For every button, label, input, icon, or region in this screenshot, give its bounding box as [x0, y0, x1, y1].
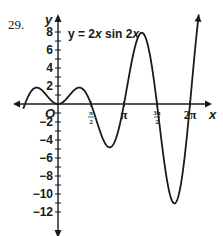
y-tick-label: −12	[33, 205, 54, 219]
y-tick-label: 2	[46, 79, 53, 93]
x-tick-label: 2π	[184, 108, 197, 122]
x-tick-label-numerator: 3π	[153, 109, 161, 117]
y-tick-label: −8	[39, 169, 53, 183]
y-axis-arrow-down-icon	[55, 230, 62, 236]
axis-labels: 8642−2−4−6−8−10−12π2π3π22πxyOy = 2x sin …	[33, 12, 217, 219]
x-tick-label-denominator: 2	[155, 118, 159, 126]
chart-plot: 8642−2−4−6−8−10−12π2π3π22πxyOy = 2x sin …	[0, 0, 223, 236]
equation-label: y = 2x sin 2x	[68, 27, 140, 41]
x-tick-label: π	[121, 108, 128, 122]
y-tick-label: −10	[33, 187, 54, 201]
x-tick-label-numerator: π	[89, 109, 93, 117]
y-tick-label: −4	[39, 133, 53, 147]
y-tick-label: −6	[39, 151, 53, 165]
y-tick-label: 6	[46, 43, 53, 57]
x-axis-label: x	[208, 107, 217, 122]
y-axis-arrow-up-icon	[55, 14, 62, 22]
origin-label: O	[45, 106, 55, 121]
y-axis-label: y	[44, 12, 53, 27]
x-axis-arrow-left-icon	[13, 101, 20, 108]
y-tick-label: 4	[46, 61, 53, 75]
y-tick-label: 8	[46, 25, 53, 39]
x-tick-label-denominator: 2	[89, 118, 93, 126]
